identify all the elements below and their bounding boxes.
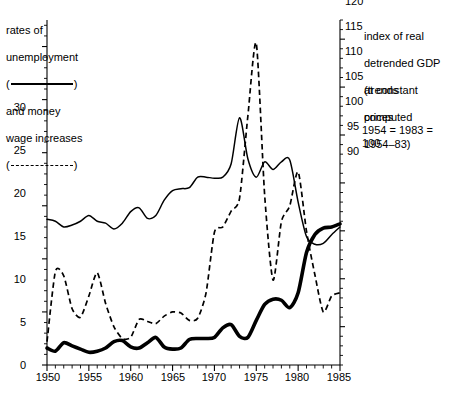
plot-area: [0, 0, 451, 416]
ticks-left: [42, 25, 47, 365]
series-line-gdp: [47, 118, 340, 245]
chart-figure: rates of unemployment ( ) and money wage…: [0, 0, 451, 416]
ticks-bottom: [47, 365, 340, 371]
ticks-right: [340, 20, 345, 365]
